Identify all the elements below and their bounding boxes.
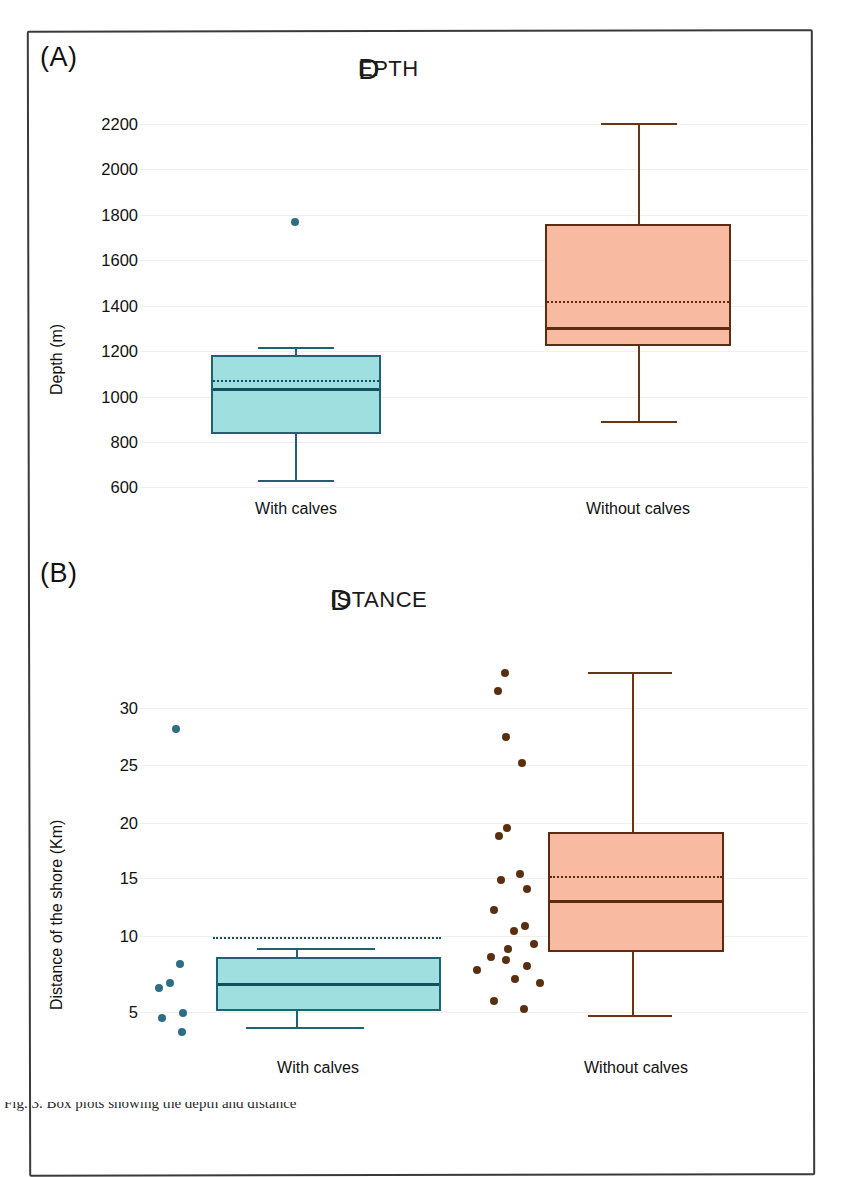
- figure-caption: Fig. 3. Box plots showing the depth and …: [4, 1102, 296, 1112]
- data-point: [510, 927, 518, 935]
- gridline: [140, 1012, 808, 1013]
- data-point: [502, 733, 510, 741]
- gridline: [140, 823, 808, 824]
- data-point: [520, 1005, 528, 1013]
- panel-b-title-lead: D: [330, 583, 352, 585]
- data-point: [511, 975, 519, 983]
- data-point: [494, 687, 502, 695]
- panel-b-xtick-with-calves: With calves: [248, 1059, 388, 1077]
- data-point: [166, 979, 174, 987]
- data-point: [497, 876, 505, 884]
- whisker-cap-lower: [246, 1027, 364, 1029]
- data-point: [504, 945, 512, 953]
- data-point: [516, 870, 524, 878]
- panel-b-letter: (B): [40, 558, 78, 589]
- mean-line: [213, 937, 441, 939]
- data-point: [473, 966, 481, 974]
- data-point: [523, 962, 531, 970]
- median-line: [550, 900, 722, 903]
- whisker-line-lower: [296, 1011, 298, 1028]
- panel-b-ytick-20: 20: [82, 814, 138, 833]
- panel-b-ytick-30: 30: [82, 699, 138, 718]
- data-point: [503, 824, 511, 832]
- panel-b-y-axis-label: Distance of the shore (Km): [48, 820, 66, 1010]
- data-point: [172, 725, 180, 733]
- data-point: [530, 940, 538, 948]
- whisker-cap-lower: [588, 1015, 672, 1017]
- whisker-line-upper: [632, 672, 634, 834]
- data-point: [179, 1009, 187, 1017]
- whisker-line-lower: [632, 952, 634, 1017]
- data-point: [155, 984, 163, 992]
- whisker-cap-upper: [588, 672, 672, 674]
- data-point: [502, 956, 510, 964]
- data-point: [536, 979, 544, 987]
- gridline: [140, 765, 808, 766]
- data-point: [490, 906, 498, 914]
- data-point: [487, 953, 495, 961]
- data-point: [521, 922, 529, 930]
- panel-b-ytick-25: 25: [82, 756, 138, 775]
- median-line: [218, 983, 439, 986]
- mean-line: [550, 876, 722, 878]
- panel-b-ytick-5: 5: [82, 1003, 138, 1022]
- panel-b-ytick-15: 15: [82, 869, 138, 888]
- gridline: [140, 708, 808, 709]
- data-point: [518, 759, 526, 767]
- data-point: [501, 669, 509, 677]
- figure-caption-strip: Fig. 3. Box plots showing the depth and …: [0, 1102, 858, 1124]
- data-point: [178, 1028, 186, 1036]
- box-without-calves-distance: [548, 832, 724, 952]
- data-point: [523, 885, 531, 893]
- data-point: [490, 997, 498, 1005]
- panel-b-title: DISTANCE: [330, 583, 427, 614]
- panel-b-ytick-10: 10: [82, 927, 138, 946]
- whisker-cap-upper: [257, 948, 375, 950]
- panel-b-xtick-without-calves: Without calves: [566, 1059, 706, 1077]
- data-point: [495, 832, 503, 840]
- data-point: [176, 960, 184, 968]
- data-point: [158, 1014, 166, 1022]
